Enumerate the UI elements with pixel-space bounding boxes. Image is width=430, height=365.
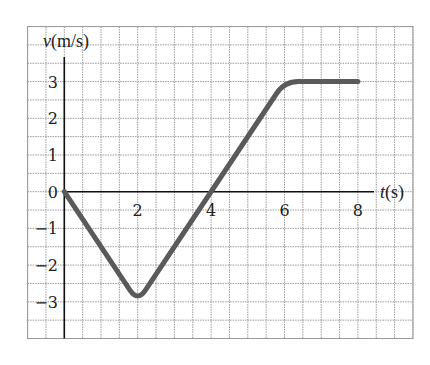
- velocity-time-chart: 2468 3210−1−2−3 v(m/s) t(s): [0, 0, 430, 365]
- v-tick-label: −2: [34, 256, 58, 275]
- v-tick-label: 0: [48, 183, 58, 202]
- grid-border: [28, 27, 413, 339]
- t-tick-label: 2: [133, 201, 143, 220]
- axes: [64, 57, 374, 339]
- grid: [28, 27, 413, 339]
- t-tick-label: 4: [206, 201, 216, 220]
- v-tick-label: −1: [34, 219, 58, 238]
- v-axis-unit: (m/s): [51, 31, 89, 52]
- v-tick-label: 2: [48, 109, 58, 128]
- v-tick-label: 1: [48, 146, 58, 165]
- t-axis-unit: (s): [385, 182, 404, 203]
- t-axis-label: t(s): [380, 182, 404, 203]
- t-tick-label: 6: [279, 201, 289, 220]
- v-tick-label: −3: [34, 293, 58, 312]
- t-tick-label: 8: [353, 201, 363, 220]
- v-tick-label: 3: [48, 73, 58, 92]
- v-axis-variable: v: [43, 31, 51, 51]
- v-axis-label: v(m/s): [43, 31, 89, 52]
- velocity-curve: [64, 82, 358, 296]
